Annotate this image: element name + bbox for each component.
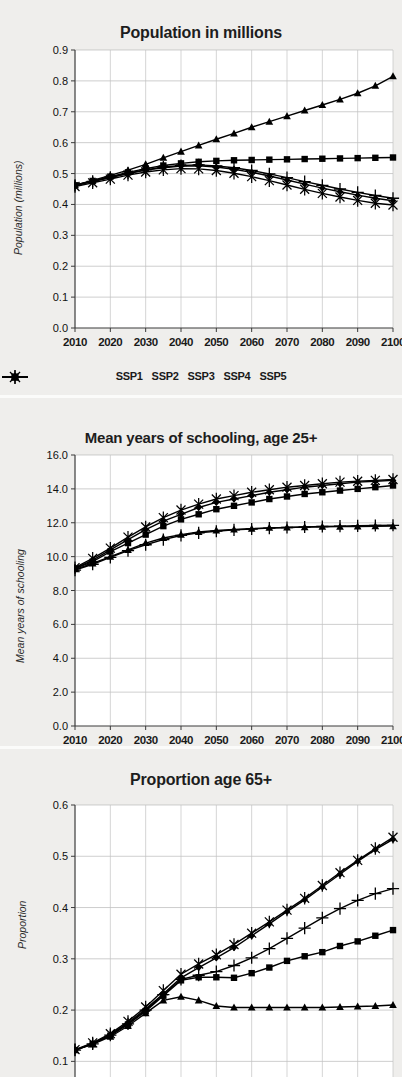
chart-svg-population: 0.00.10.20.30.40.50.60.70.80.92010202020… — [0, 0, 402, 395]
y-tick-label: 0.2 — [53, 260, 68, 272]
marker-square — [266, 156, 272, 162]
y-axis-ticks: 0.00.10.20.30.40.50.60.70.80.9 — [53, 44, 75, 334]
y-tick-label: 0.6 — [53, 799, 68, 811]
x-tick-label: 2070 — [275, 336, 299, 348]
marker-square — [372, 155, 378, 161]
marker-square — [284, 958, 290, 964]
y-tick-label: 0.6 — [53, 137, 68, 149]
x-tick-label: 2010 — [63, 336, 87, 348]
marker-square — [319, 156, 325, 162]
x-tick-label: 2090 — [346, 336, 370, 348]
x-tick-label: 2060 — [240, 734, 264, 746]
chart-svg-schooling: 0.02.04.06.08.010.012.014.016.0201020202… — [0, 398, 402, 746]
chart-panel-proportion: Proportion age 65+ Proportion 0.10.20.30… — [0, 749, 402, 1077]
marker-square — [266, 496, 272, 502]
y-tick-label: 0.5 — [53, 850, 68, 862]
marker-square — [319, 949, 325, 955]
x-tick-label: 2100 — [381, 734, 402, 746]
chart-panel-schooling: Mean years of schooling, age 25+ Mean ye… — [0, 398, 402, 746]
x-tick-label: 2100 — [381, 336, 402, 348]
y-axis-ticks: 0.02.04.06.08.010.012.014.016.0 — [47, 449, 75, 732]
legend-label: SSP2 — [152, 370, 179, 382]
y-tick-label: 0.9 — [53, 44, 68, 56]
y-tick-label: 0.0 — [53, 322, 68, 334]
x-axis-ticks: 2010202020302040205020602070208020902100 — [63, 328, 402, 348]
x-tick-label: 2090 — [346, 734, 370, 746]
x-tick-label: 2020 — [98, 336, 122, 348]
marker-square — [178, 516, 184, 522]
marker-square — [213, 506, 219, 512]
chart-legend: SSP1SSP2SSP3SSP4SSP5 — [0, 370, 402, 382]
marker-square — [248, 499, 254, 505]
legend-item-ssp2[interactable]: SSP2 — [152, 370, 179, 382]
y-tick-label: 0.2 — [53, 1004, 68, 1016]
y-tick-label: 16.0 — [47, 449, 68, 461]
x-tick-label: 2070 — [275, 734, 299, 746]
y-tick-label: 0.8 — [53, 75, 68, 87]
x-tick-label: 2030 — [134, 336, 158, 348]
x-tick-label: 2040 — [169, 336, 193, 348]
y-tick-label: 0.3 — [53, 953, 68, 965]
y-tick-label: 0.4 — [53, 198, 68, 210]
y-tick-label: 10.0 — [47, 551, 68, 563]
legend-label: SSP5 — [259, 370, 286, 382]
y-tick-label: 6.0 — [53, 618, 68, 630]
y-tick-label: 0.0 — [53, 720, 68, 732]
x-tick-label: 2050 — [204, 734, 228, 746]
legend-label: SSP3 — [188, 370, 215, 382]
legend-label: SSP4 — [223, 370, 250, 382]
legend-item-ssp5[interactable]: SSP5 — [259, 370, 286, 382]
marker-square — [266, 964, 272, 970]
x-tick-label: 2080 — [310, 734, 334, 746]
chart-panel-population: Population in millions Population (milli… — [0, 0, 402, 395]
y-tick-label: 14.0 — [47, 483, 68, 495]
marker-square — [284, 493, 290, 499]
y-tick-label: 8.0 — [53, 585, 68, 597]
x-tick-label: 2080 — [310, 336, 334, 348]
y-tick-label: 0.5 — [53, 168, 68, 180]
legend-item-ssp4[interactable]: SSP4 — [223, 370, 250, 382]
marker-square — [231, 975, 237, 981]
marker-square — [231, 503, 237, 509]
legend-item-ssp1[interactable]: SSP1 — [116, 370, 143, 382]
y-tick-label: 0.1 — [53, 1055, 68, 1067]
y-tick-label: 4.0 — [53, 652, 68, 664]
y-axis-ticks: 0.10.20.30.40.50.6 — [53, 799, 75, 1067]
x-tick-label: 2020 — [98, 734, 122, 746]
marker-square — [284, 156, 290, 162]
x-tick-label: 2010 — [63, 734, 87, 746]
marker-square — [195, 511, 201, 517]
legend-label: SSP1 — [116, 370, 143, 382]
legend-item-ssp3[interactable]: SSP3 — [188, 370, 215, 382]
marker-square — [337, 155, 343, 161]
x-tick-label: 2060 — [240, 336, 264, 348]
legend-marker-asterisk-icon — [0, 370, 30, 384]
marker-square — [248, 157, 254, 163]
marker-square — [337, 943, 343, 949]
marker-square — [372, 933, 378, 939]
y-tick-label: 0.7 — [53, 106, 68, 118]
marker-square — [354, 938, 360, 944]
figure-page: Population in millions Population (milli… — [0, 0, 402, 1077]
x-tick-label: 2050 — [204, 336, 228, 348]
marker-square — [354, 155, 360, 161]
x-axis-ticks: 2010202020302040205020602070208020902100 — [63, 726, 402, 746]
marker-square — [390, 154, 396, 160]
y-tick-label: 0.4 — [53, 902, 68, 914]
marker-square — [390, 927, 396, 933]
x-tick-label: 2030 — [134, 734, 158, 746]
marker-square — [301, 156, 307, 162]
marker-square — [248, 970, 254, 976]
y-tick-label: 12.0 — [47, 517, 68, 529]
marker-square — [301, 953, 307, 959]
y-tick-label: 0.3 — [53, 229, 68, 241]
chart-svg-proportion: 0.10.20.30.40.50.62010202020302040205020… — [0, 749, 402, 1077]
y-tick-label: 2.0 — [53, 686, 68, 698]
x-tick-label: 2040 — [169, 734, 193, 746]
y-tick-label: 0.1 — [53, 291, 68, 303]
